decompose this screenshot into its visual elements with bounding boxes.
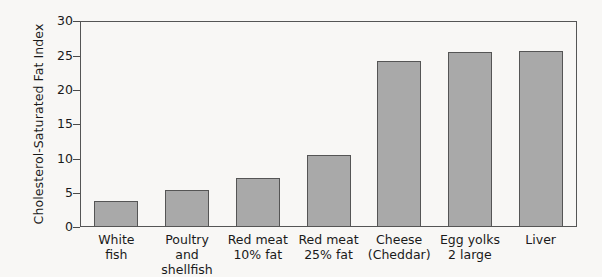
y-tick-mark-0 — [73, 227, 80, 228]
y-tick-mark-5 — [73, 193, 80, 194]
y-tick-mark-20 — [73, 90, 80, 91]
y-tick-label-10: 10 — [40, 153, 73, 165]
bars-layer — [81, 22, 576, 227]
y-tick-label-20: 20 — [40, 84, 73, 96]
y-tick-label-25: 25 — [40, 50, 73, 62]
x-label-egg-yolks: Egg yolks 2 large — [435, 232, 506, 262]
x-label-white-fish: White fish — [81, 232, 152, 262]
y-tick-mark-10 — [73, 159, 80, 160]
x-label-cheese-cheddar: Cheese (Cheddar) — [364, 232, 435, 262]
bar-white-fish — [94, 201, 138, 227]
x-label-red-meat-10-fat: Red meat 10% fat — [222, 232, 293, 262]
y-tick-label-15: 15 — [40, 118, 73, 130]
y-axis-tick-labels: 0 5 10 15 20 25 30 — [40, 0, 73, 272]
bar-red-meat-25-fat — [307, 155, 351, 227]
y-tick-label-5: 5 — [40, 187, 73, 199]
y-tick-mark-15 — [73, 124, 80, 125]
bar-red-meat-10-fat — [236, 178, 280, 227]
x-label-poultry-shellfish: Poultry and shellfish — [152, 232, 223, 277]
bar-egg-yolks — [448, 52, 492, 227]
bar-liver — [519, 51, 563, 227]
y-tick-label-0: 0 — [40, 221, 73, 233]
y-tick-mark-30 — [73, 21, 80, 22]
bar-cheese-cheddar — [377, 61, 421, 227]
x-label-red-meat-25-fat: Red meat 25% fat — [293, 232, 364, 262]
y-tick-mark-25 — [73, 56, 80, 57]
y-tick-label-30: 30 — [40, 15, 73, 27]
x-axis-category-labels: White fish Poultry and shellfish Red mea… — [81, 232, 576, 272]
x-label-liver: Liver — [505, 232, 576, 247]
bar-poultry-shellfish — [165, 190, 209, 227]
